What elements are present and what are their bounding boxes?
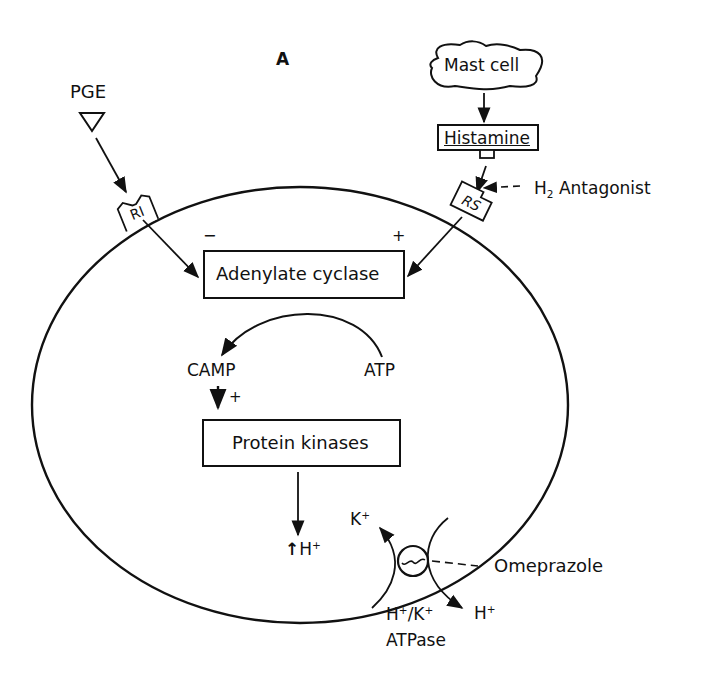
pump-name-line1: H+/K+ xyxy=(386,605,433,623)
camp-label: CAMP xyxy=(187,362,235,379)
k-ion-label: K+ xyxy=(350,510,370,528)
pge-label: PGE xyxy=(70,83,106,101)
up-arrow-icon: ↑ xyxy=(285,539,299,559)
protein-kinases-label: Protein kinases xyxy=(232,434,369,452)
h2-subscript: 2 xyxy=(547,188,554,200)
atp-to-camp-curved-arrow xyxy=(222,314,382,357)
ri-inhibitory-sign: − xyxy=(203,228,216,244)
histamine-tab xyxy=(480,150,494,158)
rs-to-cyclase-arrow xyxy=(408,217,462,276)
pge-triangle-icon xyxy=(80,113,104,131)
h2-antagonist-text: Antagonist xyxy=(559,178,651,198)
omeprazole-label: Omeprazole xyxy=(494,557,603,575)
h-ion-charge: + xyxy=(312,539,321,551)
h2-antagonist-label: H2 Antagonist xyxy=(534,180,651,199)
mast-cell-label: Mast cell xyxy=(444,57,519,74)
histamine-label: Histamine xyxy=(444,130,530,147)
k-in-curved-arrow xyxy=(372,528,395,608)
h2-prefix: H xyxy=(534,178,547,198)
rs-stimulatory-sign: + xyxy=(392,228,405,244)
h-out-ion-label: H+ xyxy=(474,604,496,622)
h-ion-text: H xyxy=(299,539,312,559)
pump-name-line2: ATPase xyxy=(386,632,446,649)
diagram-lines xyxy=(0,0,708,689)
omeprazole-dashed-line xyxy=(432,561,478,566)
ri-to-cyclase-arrow xyxy=(143,220,198,277)
atp-label: ATP xyxy=(364,362,395,379)
panel-label: A xyxy=(276,51,289,68)
gastric-parietal-cell-diagram: A PGE Mast cell Histamine H2 Antagonist … xyxy=(0,0,708,689)
h-increase-label: ↑H+ xyxy=(285,540,321,558)
histamine-to-rs-arrow xyxy=(477,166,486,192)
h2-antagonist-dashed-arrow xyxy=(484,186,520,188)
adenylate-cyclase-label: Adenylate cyclase xyxy=(216,265,379,283)
pge-to-ri-arrow xyxy=(96,138,126,192)
camp-stimulatory-sign: + xyxy=(229,390,242,405)
